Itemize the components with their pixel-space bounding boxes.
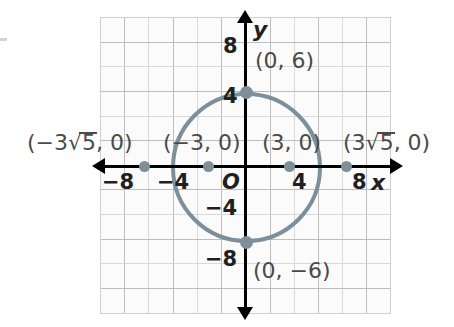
annotation-bottom-point: (0, −6) bbox=[253, 258, 331, 283]
annotation-right-outer-point: (3√5, 0) bbox=[343, 130, 430, 155]
radical-glyph: √ bbox=[68, 130, 82, 155]
radical-glyph: √ bbox=[366, 130, 380, 155]
origin-label: O bbox=[222, 170, 240, 194]
left-outer-suffix: , 0) bbox=[96, 130, 133, 155]
x-axis-label: x bbox=[371, 170, 385, 195]
y-axis-arrow-down bbox=[237, 307, 253, 320]
radical-vinculum bbox=[79, 132, 96, 134]
y-axis-label: y bbox=[253, 17, 267, 42]
x-axis-arrow-right bbox=[390, 158, 403, 174]
x-tick-8: 8 bbox=[352, 170, 367, 194]
y-tick-neg4: −4 bbox=[205, 196, 237, 220]
left-outer-radicand: 5 bbox=[82, 130, 96, 155]
radical-icon: √5 bbox=[68, 130, 96, 155]
annotation-top-point: (0, 6) bbox=[255, 48, 314, 73]
y-tick-4: 4 bbox=[223, 84, 238, 108]
x-tick-4: 4 bbox=[292, 170, 307, 194]
point-neg3root5-0 bbox=[139, 161, 150, 172]
annotation-left-outer-point: (−3√5, 0) bbox=[27, 130, 133, 155]
point-3root5-0 bbox=[341, 161, 352, 172]
y-axis-arrow-up bbox=[237, 10, 253, 23]
right-outer-prefix: (3 bbox=[343, 130, 366, 155]
point-0-6 bbox=[240, 86, 253, 99]
right-outer-radicand: 5 bbox=[380, 130, 394, 155]
y-axis bbox=[244, 19, 247, 310]
right-outer-suffix: , 0) bbox=[394, 130, 431, 155]
radical-vinculum bbox=[377, 132, 394, 134]
page-edge-artifact bbox=[0, 38, 7, 41]
annotation-left-inner-point: (−3, 0) bbox=[163, 130, 241, 155]
point-neg3-0 bbox=[203, 161, 214, 172]
x-tick-neg8: −8 bbox=[102, 170, 134, 194]
left-outer-prefix: (−3 bbox=[27, 130, 68, 155]
y-tick-8: 8 bbox=[223, 34, 238, 58]
graph-figure: y x O 8 4 −4 −8 −8 −4 4 8 (0, 6) (0, −6)… bbox=[0, 0, 454, 327]
point-0-neg6 bbox=[240, 236, 253, 249]
annotation-right-inner-point: (3, 0) bbox=[262, 130, 321, 155]
radical-icon: √5 bbox=[366, 130, 394, 155]
x-tick-neg4: −4 bbox=[157, 170, 189, 194]
y-tick-neg8: −8 bbox=[205, 247, 237, 271]
